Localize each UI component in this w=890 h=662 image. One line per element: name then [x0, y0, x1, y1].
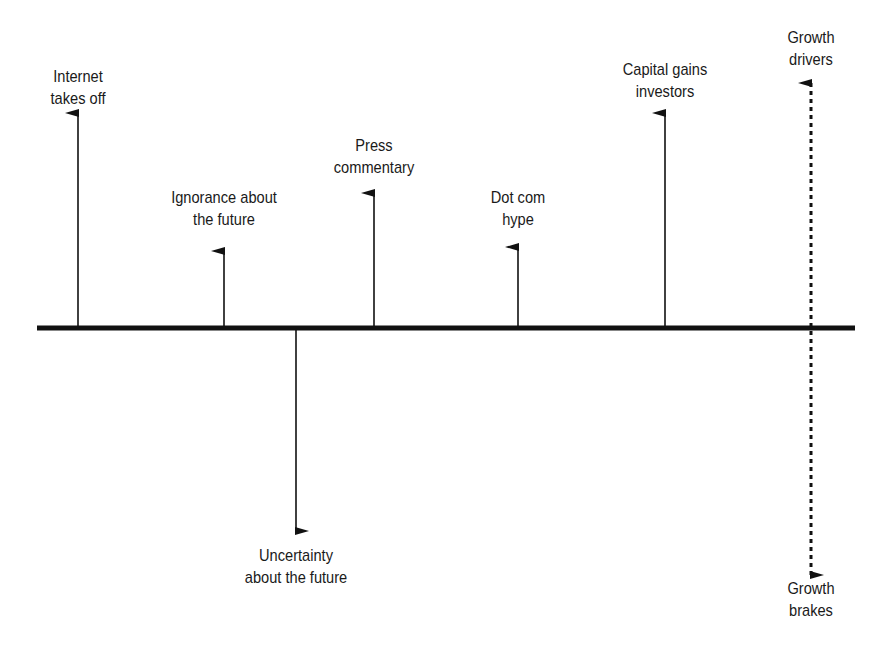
force-label-line-1: Capital gains [623, 59, 708, 81]
legend-label-growth-brakes: Growth brakes [787, 578, 834, 622]
force-label-line-1: Dot com [491, 187, 545, 209]
force-label-line-1: Growth [787, 578, 834, 600]
force-label-line-2: the future [171, 209, 277, 231]
force-label-line-1: Press [334, 135, 414, 157]
driver-label-internet: Internet takes off [51, 66, 106, 110]
force-label-line-2: takes off [51, 88, 106, 110]
force-label-line-2: investors [623, 81, 708, 103]
force-label-line-1: Internet [51, 66, 106, 88]
force-label-line-2: drivers [787, 49, 834, 71]
driver-label-press: Press commentary [334, 135, 414, 179]
force-label-line-2: brakes [787, 600, 834, 622]
force-label-line-2: about the future [245, 567, 347, 589]
driver-label-capital: Capital gains investors [623, 59, 708, 103]
driver-label-ignorance: Ignorance about the future [171, 187, 277, 231]
force-label-line-1: Ignorance about [171, 187, 277, 209]
force-label-line-1: Growth [787, 27, 834, 49]
force-label-line-2: commentary [334, 157, 414, 179]
force-label-line-2: hype [491, 209, 545, 231]
driver-label-dotcom: Dot com hype [491, 187, 545, 231]
legend-label-growth-drivers: Growth drivers [787, 27, 834, 71]
force-label-line-1: Uncertainty [245, 545, 347, 567]
brake-label-uncertainty: Uncertainty about the future [245, 545, 347, 589]
force-field-diagram [0, 0, 890, 662]
